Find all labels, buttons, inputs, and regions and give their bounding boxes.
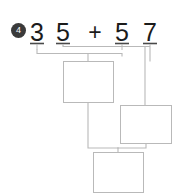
answer-box-partial-sum-ones[interactable] bbox=[63, 61, 114, 103]
answer-box-partial-sum-tens[interactable] bbox=[120, 105, 172, 144]
worksheet-exercise-canvas: 4 3 5 + 5 7 bbox=[0, 0, 185, 196]
connector-box2-out bbox=[118, 144, 146, 148]
connector-tens-pair bbox=[37, 50, 122, 56]
answer-box-final-sum[interactable] bbox=[93, 152, 144, 193]
connector-box1-out bbox=[88, 103, 118, 148]
